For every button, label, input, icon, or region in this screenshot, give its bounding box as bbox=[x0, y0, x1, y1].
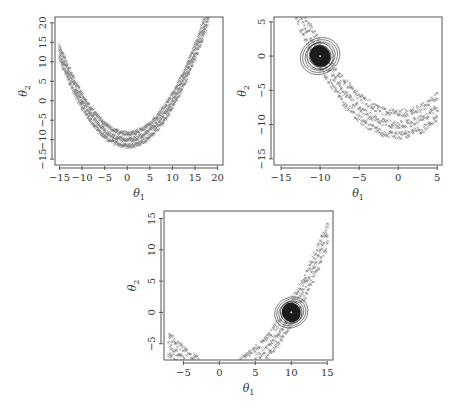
x-tick-label: 5 bbox=[252, 367, 258, 378]
y-axis-label: θ2 bbox=[236, 85, 251, 97]
x-tick-label: −5 bbox=[97, 172, 112, 183]
panel-b-plot: −15−10−505−15−10−505θ1θ2 bbox=[236, 0, 442, 202]
y-tick-label: 10 bbox=[146, 243, 157, 256]
contour-mode bbox=[294, 30, 347, 81]
y-axis: −15−10−505101520 bbox=[37, 16, 54, 169]
x-tick-label: 5 bbox=[147, 172, 153, 183]
x-axis-label: θ1 bbox=[352, 187, 364, 202]
y-tick-label: −5 bbox=[146, 336, 157, 351]
y-tick-label: −15 bbox=[256, 148, 267, 169]
x-axis-label: θ1 bbox=[243, 382, 255, 397]
y-tick-label: 20 bbox=[37, 16, 48, 29]
x-tick-label: 10 bbox=[166, 172, 179, 183]
x-tick-label: 0 bbox=[216, 367, 222, 378]
x-tick-label: 0 bbox=[395, 172, 401, 183]
x-tick-label: 0 bbox=[124, 172, 130, 183]
y-tick-label: 5 bbox=[37, 78, 48, 84]
y-tick-label: −5 bbox=[37, 113, 48, 128]
x-tick-label: −15 bbox=[270, 172, 291, 183]
y-tick-label: −10 bbox=[37, 129, 48, 150]
y-tick-label: 0 bbox=[146, 309, 157, 315]
panel-a-plot: −15−10−505101520−15−10−505101520θ1θ2 bbox=[17, 4, 224, 202]
y-tick-label: 15 bbox=[37, 36, 48, 49]
x-axis: −15−10−505 bbox=[270, 166, 440, 183]
x-tick-label: 10 bbox=[285, 367, 298, 378]
x-tick-label: −10 bbox=[72, 172, 93, 183]
plot-frame bbox=[164, 211, 333, 360]
y-axis-label: θ2 bbox=[126, 280, 141, 292]
y-tick-label: 0 bbox=[256, 53, 267, 59]
y-axis-label: θ2 bbox=[17, 85, 32, 97]
y-axis: −15−10−505 bbox=[256, 19, 273, 170]
x-tick-label: 5 bbox=[434, 172, 440, 183]
x-tick-label: 15 bbox=[321, 367, 334, 378]
x-axis-label: θ1 bbox=[133, 187, 145, 202]
x-axis: −15−10−505101520 bbox=[49, 166, 224, 183]
y-tick-label: −5 bbox=[256, 83, 267, 98]
x-tick-label: −5 bbox=[176, 367, 191, 378]
plot-area bbox=[167, 223, 329, 383]
particle-scatter bbox=[58, 4, 210, 149]
y-tick-label: −15 bbox=[37, 149, 48, 170]
y-tick-label: 15 bbox=[146, 212, 157, 225]
plot-area bbox=[58, 4, 210, 149]
particle-scatter bbox=[239, 223, 329, 383]
figure-canvas: −15−10−505101520−15−10−505101520θ1θ2 −15… bbox=[0, 0, 459, 413]
x-tick-label: −5 bbox=[352, 172, 367, 183]
y-tick-label: 0 bbox=[37, 98, 48, 104]
y-axis: −5051015 bbox=[146, 212, 163, 351]
y-tick-label: 5 bbox=[146, 278, 157, 284]
x-tick-label: −15 bbox=[49, 172, 70, 183]
y-tick-label: 5 bbox=[256, 19, 267, 25]
x-tick-label: −10 bbox=[310, 172, 331, 183]
x-axis: −5051015 bbox=[176, 361, 334, 378]
plot-area bbox=[294, 0, 440, 140]
x-tick-label: 20 bbox=[211, 172, 224, 183]
panel-c-plot: −5051015−5051015θ1θ2 bbox=[126, 211, 334, 397]
y-tick-label: −10 bbox=[256, 114, 267, 135]
x-tick-label: 15 bbox=[189, 172, 202, 183]
y-tick-label: 10 bbox=[37, 55, 48, 68]
